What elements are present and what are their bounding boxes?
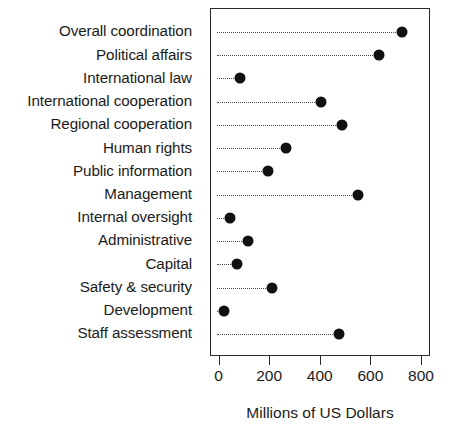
category-label-column: Overall coordinationPolitical affairsInt…: [0, 8, 196, 356]
category-label: Internal oversight: [77, 209, 192, 224]
data-point-marker: [336, 119, 347, 130]
row-guide-line: [217, 148, 282, 149]
category-label: Public information: [73, 163, 192, 178]
data-point-marker: [281, 143, 292, 154]
x-axis-tick-label: 600: [357, 368, 383, 384]
data-point-marker: [333, 329, 344, 340]
x-axis-tick: [421, 356, 422, 365]
data-point-marker: [231, 259, 242, 270]
data-point-marker: [373, 50, 384, 61]
plot-panel: [210, 8, 430, 356]
row-guide-line: [217, 125, 338, 126]
row-guide-line: [217, 241, 244, 242]
x-axis-tick: [320, 356, 321, 365]
data-point-marker: [243, 236, 254, 247]
row-guide-line: [217, 171, 264, 172]
row-guide-line: [217, 78, 236, 79]
data-point-marker: [397, 27, 408, 38]
plot-area: [211, 9, 429, 355]
row-guide-line: [217, 195, 354, 196]
category-label: International law: [83, 70, 192, 85]
category-label: Management: [104, 186, 192, 201]
row-guide-line: [217, 288, 268, 289]
data-point-marker: [219, 305, 230, 316]
category-label: Regional cooperation: [50, 116, 192, 131]
row-guide-line: [217, 102, 317, 103]
category-label: Administrative: [98, 232, 192, 247]
data-point-marker: [266, 282, 277, 293]
data-point-marker: [315, 96, 326, 107]
dot-plot-figure: Overall coordinationPolitical affairsInt…: [0, 0, 452, 444]
x-axis-tick: [269, 356, 270, 365]
x-axis-tick: [219, 356, 220, 365]
row-guide-line: [217, 334, 335, 335]
x-axis-title: Millions of US Dollars: [210, 404, 430, 421]
category-label: Human rights: [103, 140, 192, 155]
category-label: Development: [104, 302, 192, 317]
x-axis-tick-label: 200: [256, 368, 282, 384]
category-label: Overall coordination: [59, 23, 192, 38]
category-label: Political affairs: [96, 47, 192, 62]
row-guide-line: [217, 55, 375, 56]
category-label: Staff assessment: [77, 325, 192, 340]
category-label: International cooperation: [27, 93, 192, 108]
data-point-marker: [235, 73, 246, 84]
data-point-marker: [225, 212, 236, 223]
category-label: Safety & security: [80, 279, 192, 294]
x-axis-tick-label: 0: [214, 368, 223, 384]
data-point-marker: [353, 189, 364, 200]
x-axis-tick: [370, 356, 371, 365]
x-axis: 0200400600800: [210, 356, 430, 376]
row-guide-line: [217, 32, 398, 33]
category-label: Capital: [145, 256, 192, 271]
x-axis-tick-label: 400: [307, 368, 333, 384]
data-point-marker: [262, 166, 273, 177]
x-axis-tick-label: 800: [408, 368, 434, 384]
